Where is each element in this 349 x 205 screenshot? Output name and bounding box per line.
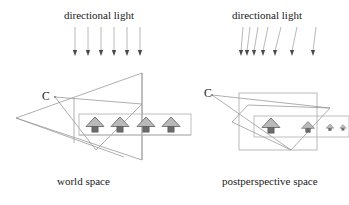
left-light-ray-arrowheads: [73, 50, 142, 56]
left-camera-label: C: [42, 91, 50, 103]
house-icon: [262, 118, 280, 133]
left-light-rays: [75, 27, 140, 51]
right-panel-graphics: [211, 27, 349, 150]
house-icon: [326, 124, 334, 131]
right-houses: [262, 118, 346, 133]
right-camera-label: C: [204, 88, 212, 100]
right-light-rays: [241, 27, 316, 51]
left-camera-frustum: [55, 73, 142, 160]
house-icon: [302, 122, 315, 133]
left-caption-world-space: world space: [57, 176, 110, 187]
right-heading-directional-light: directional light: [232, 10, 302, 21]
left-heading-directional-light: directional light: [64, 10, 134, 21]
figure-shadow-map-perspective-comparison: directional light directional light C C …: [0, 0, 349, 205]
left-houses: [86, 117, 180, 132]
left-camera-point: [54, 96, 56, 98]
house-icon: [340, 125, 347, 131]
right-light-ray-arrowheads: [239, 50, 315, 56]
house-icon: [86, 117, 104, 132]
right-caption-postperspective-space: postperspective space: [222, 176, 318, 187]
house-icon: [137, 117, 155, 132]
house-icon: [162, 117, 180, 132]
